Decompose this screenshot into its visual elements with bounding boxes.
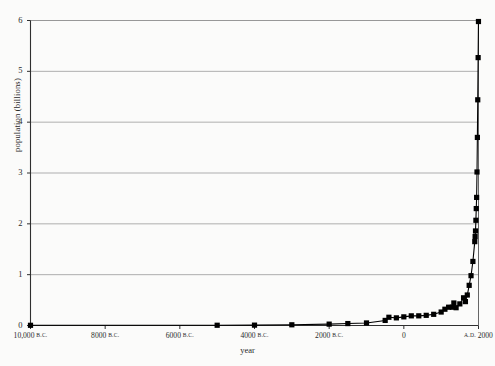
population-growth-chart: population (billions) year 0123456 10,00…	[0, 0, 495, 366]
data-point-markers	[28, 19, 481, 328]
gridlines	[31, 21, 479, 275]
plot-area	[0, 0, 495, 366]
population-curve	[31, 22, 479, 326]
tick-marks	[27, 21, 479, 330]
